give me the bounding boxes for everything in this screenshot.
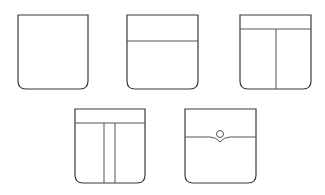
pocket-band-box-pleat — [75, 109, 145, 183]
button-icon — [217, 131, 224, 138]
pocket-band-center-seam — [240, 15, 311, 89]
pocket-plain — [18, 15, 88, 89]
pocket-styles-diagram — [0, 0, 325, 195]
pocket-button-flap — [185, 109, 256, 183]
pocket-band — [127, 15, 198, 89]
